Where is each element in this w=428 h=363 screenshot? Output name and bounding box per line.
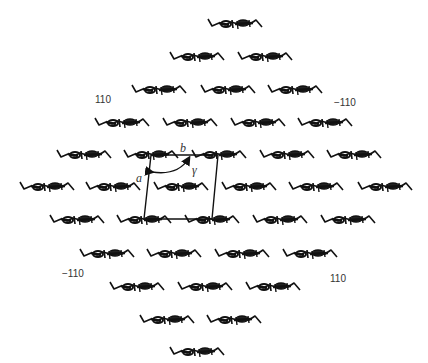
molecule xyxy=(327,150,381,160)
molecule xyxy=(170,347,224,357)
molecule xyxy=(238,52,292,62)
molecule xyxy=(50,215,104,225)
molecule xyxy=(201,85,255,95)
molecule xyxy=(358,182,412,192)
label-minus110-top-right: −110 xyxy=(334,97,356,108)
molecule xyxy=(57,150,111,160)
molecule xyxy=(163,118,217,128)
cell-axis-a-label: a xyxy=(136,171,142,186)
molecule xyxy=(246,282,300,292)
label-110-bottom-right: 110 xyxy=(330,273,346,284)
gamma-angle-arc xyxy=(152,158,189,173)
molecule xyxy=(147,249,201,259)
molecule xyxy=(86,182,140,192)
molecule xyxy=(207,315,261,325)
molecule xyxy=(321,215,375,225)
molecule xyxy=(140,315,194,325)
molecule xyxy=(268,85,322,95)
molecule xyxy=(110,282,164,292)
molecule xyxy=(289,182,343,192)
molecule xyxy=(170,52,224,62)
molecule xyxy=(215,249,269,259)
cell-angle-gamma-label: γ xyxy=(192,163,197,178)
label-minus110-bottom-left: −110 xyxy=(62,268,84,279)
label-110-top-left: 110 xyxy=(95,94,111,105)
molecule xyxy=(253,215,307,225)
cell-axis-b-label: b xyxy=(180,141,186,156)
molecule xyxy=(260,150,314,160)
molecule xyxy=(283,249,337,259)
packing-diagram xyxy=(0,0,428,363)
molecule xyxy=(20,182,74,192)
molecule xyxy=(178,282,232,292)
molecule xyxy=(298,118,352,128)
molecule xyxy=(80,249,134,259)
molecule xyxy=(231,118,285,128)
molecule xyxy=(208,19,262,29)
molecule xyxy=(154,182,208,192)
molecule xyxy=(132,85,186,95)
molecule-layer xyxy=(20,19,412,357)
molecule xyxy=(222,182,276,192)
molecule xyxy=(95,118,149,128)
